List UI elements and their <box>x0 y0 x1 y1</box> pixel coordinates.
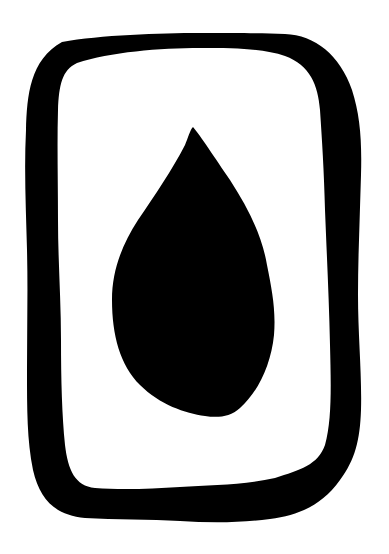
drop-card-icon <box>0 0 389 554</box>
